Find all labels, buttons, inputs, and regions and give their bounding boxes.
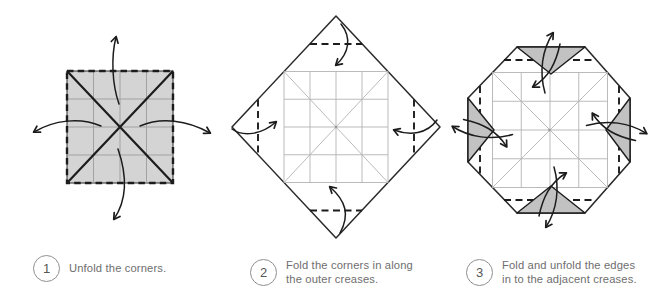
center-point bbox=[335, 126, 338, 129]
step1-figure bbox=[34, 37, 210, 219]
step-1-caption: 1 Unfold the corners. bbox=[33, 255, 166, 282]
origami-instructions-page: 1 Unfold the corners. 2 Fold the corners… bbox=[0, 0, 665, 300]
step-3-number: 3 bbox=[476, 265, 483, 280]
step-2-number-badge: 2 bbox=[250, 259, 277, 286]
step2-figure bbox=[232, 16, 440, 238]
step-2-number: 2 bbox=[260, 265, 267, 280]
step-3-caption: 3 Fold and unfold the edges in to the ad… bbox=[466, 259, 637, 286]
step3-figure bbox=[453, 33, 647, 227]
step-2-caption: 2 Fold the corners in along the outer cr… bbox=[250, 259, 413, 286]
step-3-number-badge: 3 bbox=[466, 259, 493, 286]
step-3-caption-text: Fold and unfold the edges in to the adja… bbox=[502, 259, 637, 286]
center-point bbox=[548, 129, 551, 132]
step-1-number: 1 bbox=[43, 261, 50, 276]
step-2-caption-text: Fold the corners in along the outer crea… bbox=[286, 259, 413, 286]
step-1-number-badge: 1 bbox=[33, 255, 60, 282]
step-1-caption-text: Unfold the corners. bbox=[69, 262, 166, 276]
